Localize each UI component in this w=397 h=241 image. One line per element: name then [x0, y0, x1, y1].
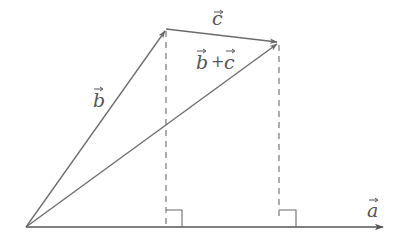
label-sum-plus-text: + — [211, 52, 224, 71]
label-b-text: b — [93, 89, 105, 111]
label-a: a — [367, 198, 378, 221]
label-sum-b-text: b — [196, 51, 208, 73]
vector-c — [166, 29, 277, 42]
label-c: c — [212, 7, 223, 29]
label-b-plus-c: b + c — [196, 49, 235, 73]
vector-b-plus-c — [26, 44, 277, 227]
right-angle-marker-b — [166, 210, 182, 227]
right-angle-marker-c — [279, 210, 296, 227]
label-a-text: a — [367, 199, 378, 221]
vector-b — [26, 31, 165, 227]
label-sum-c-text: c — [224, 51, 235, 73]
label-b: b — [93, 87, 105, 111]
vector-diagram: b c b + c a — [0, 0, 397, 241]
